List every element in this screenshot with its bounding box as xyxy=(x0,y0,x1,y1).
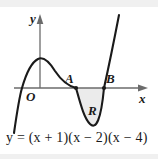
origin-label: O xyxy=(26,90,35,103)
x-axis-label: x xyxy=(139,92,146,105)
y-axis-label: y xyxy=(30,12,36,25)
y-axis-arrowhead xyxy=(37,14,44,24)
point-label-a: A xyxy=(65,72,74,85)
point-a-marker xyxy=(74,86,78,90)
point-label-b: B xyxy=(106,72,115,85)
graph-figure: y x O A B R y = (x + 1)(x − 2)(x − 4) xyxy=(0,0,158,159)
region-label-r: R xyxy=(88,104,97,117)
point-b-marker xyxy=(102,86,106,90)
curve-equation: y = (x + 1)(x − 2)(x − 4) xyxy=(6,130,148,146)
